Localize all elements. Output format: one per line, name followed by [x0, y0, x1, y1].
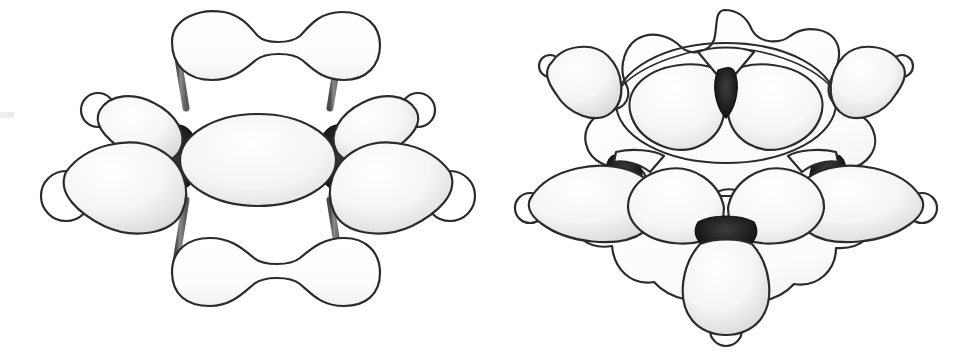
benzene-side-view-panel [0, 0, 484, 358]
sigma-lobe-center [180, 114, 336, 206]
pi-cloud-bottom-lobe [172, 238, 380, 306]
sigma-lobe-left-outer [64, 143, 186, 234]
sigma-lobe-right-outer [330, 143, 452, 234]
side-view-canvas [0, 0, 484, 358]
scan-artifact [0, 112, 14, 118]
sigma-lobe-bottom [683, 240, 770, 336]
pi-cloud-top-lobe [172, 11, 380, 80]
figure-root [0, 0, 968, 358]
sigma-lobe-upper-right [831, 47, 905, 118]
top-view-canvas [484, 0, 968, 358]
sigma-lobe-upper-left [547, 47, 621, 118]
benzene-top-view-panel [484, 0, 968, 358]
